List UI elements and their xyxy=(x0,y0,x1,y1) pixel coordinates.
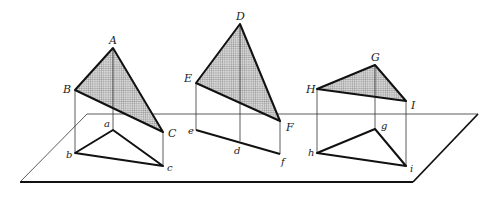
label-i: i xyxy=(410,163,413,174)
label-g: g xyxy=(381,120,387,131)
label-H: H xyxy=(305,83,316,96)
triangle-abc xyxy=(75,48,163,166)
triangle-def-fill xyxy=(196,24,280,121)
label-F: F xyxy=(285,121,294,134)
label-D: D xyxy=(235,10,245,23)
triangle-def xyxy=(196,24,280,154)
label-a: a xyxy=(104,118,110,129)
triangle-abc-fill xyxy=(75,48,163,132)
label-G: G xyxy=(371,51,380,64)
label-I: I xyxy=(410,99,416,112)
label-B: B xyxy=(62,83,71,96)
label-A: A xyxy=(108,34,117,47)
label-e: e xyxy=(188,125,194,136)
label-E: E xyxy=(183,72,192,85)
projection-abc-outline xyxy=(75,130,163,166)
label-C: C xyxy=(168,127,177,140)
label-h: h xyxy=(308,147,314,158)
triangle-ghi xyxy=(317,65,406,166)
projection-diagram: A B C D E F G H I a b c d e f g h i xyxy=(0,0,491,199)
plane-left-edge xyxy=(20,114,87,182)
label-d: d xyxy=(234,145,240,156)
projection-ghi-outline xyxy=(317,129,406,166)
label-c: c xyxy=(167,162,173,173)
label-b: b xyxy=(66,149,72,160)
plane-right-edge xyxy=(413,114,478,182)
label-f: f xyxy=(280,156,287,167)
